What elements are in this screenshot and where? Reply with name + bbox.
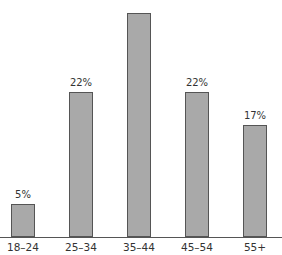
x-tick-label: 35–44 [114, 241, 164, 253]
bar-3 [185, 92, 209, 237]
data-label: 22% [61, 77, 101, 88]
bar-chart: 5%18–2422%25–3435–4422%45–5417%55+ [0, 0, 282, 255]
bar-0 [11, 204, 35, 237]
x-tick-label: 45–54 [172, 241, 222, 253]
x-axis-line [0, 237, 282, 238]
data-label: 22% [177, 77, 217, 88]
bar-4 [243, 125, 267, 237]
x-tick-label: 55+ [230, 241, 280, 253]
x-tick-label: 25–34 [56, 241, 106, 253]
x-tick-label: 18–24 [0, 241, 48, 253]
data-label: 5% [3, 189, 43, 200]
bar-1 [69, 92, 93, 237]
data-label: 17% [235, 110, 275, 121]
bar-2 [127, 13, 151, 237]
